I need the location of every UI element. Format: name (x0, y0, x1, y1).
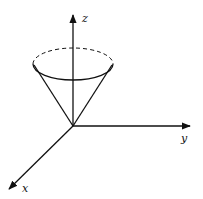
cone-right-side (73, 65, 112, 126)
z-axis-label: z (81, 12, 88, 25)
y-axis-label: y (180, 132, 188, 145)
cone-left-side (34, 65, 73, 126)
x-axis-label: x (22, 182, 29, 195)
x-axis (9, 126, 73, 189)
cone-diagram: z y x (0, 0, 203, 199)
